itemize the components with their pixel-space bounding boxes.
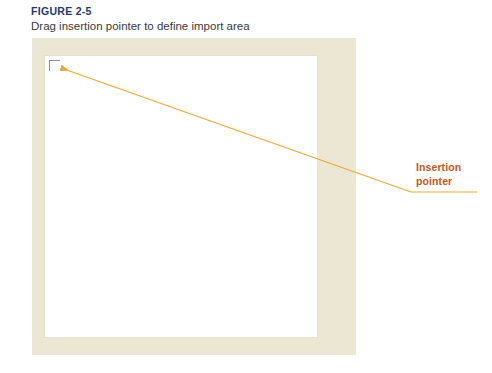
callout-label-line-2: pointer (416, 174, 486, 188)
corner-bracket-icon[interactable] (49, 60, 60, 71)
document-canvas[interactable] (44, 55, 318, 338)
figure-number: FIGURE 2-5 (31, 5, 361, 18)
corner-bracket-horizontal (49, 60, 60, 61)
document-frame (32, 38, 356, 355)
callout-label-line-1: Insertion (416, 160, 486, 174)
figure-caption-text: Drag insertion pointer to define import … (31, 19, 361, 34)
corner-bracket-vertical (49, 60, 50, 71)
figure-caption-block: FIGURE 2-5 Drag insertion pointer to def… (31, 5, 361, 34)
callout-label: Insertion pointer (416, 160, 486, 188)
figure-page: FIGURE 2-5 Drag insertion pointer to def… (0, 0, 492, 373)
